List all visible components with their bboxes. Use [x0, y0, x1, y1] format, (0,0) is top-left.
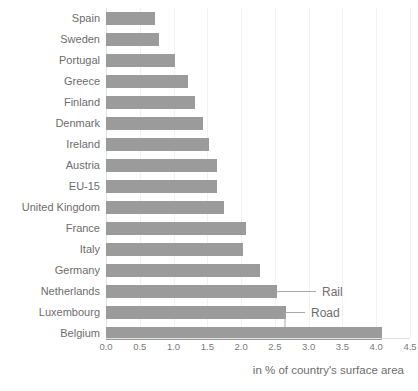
- x-axis-title: in % of country's surface area: [0, 364, 404, 376]
- category-label: France: [0, 218, 100, 239]
- bar: [106, 54, 175, 67]
- category-label: Sweden: [0, 29, 100, 50]
- category-label: Ireland: [0, 134, 100, 155]
- callout-label-rail: Rail: [322, 285, 343, 299]
- category-label: Luxembourg: [0, 302, 100, 323]
- category-label: Netherlands: [0, 281, 100, 302]
- bar-row: [106, 50, 410, 71]
- bar-row: [106, 134, 410, 155]
- bar-row: [106, 155, 410, 176]
- bar: [106, 117, 203, 130]
- bar-row: [106, 71, 410, 92]
- x-tick-label: 4.5: [390, 341, 418, 352]
- bar: [106, 180, 217, 193]
- bar: [106, 201, 224, 214]
- bar: [106, 12, 155, 25]
- x-axis-line: [106, 338, 410, 339]
- category-label: EU-15: [0, 176, 100, 197]
- bar-row: [106, 260, 410, 281]
- category-label: Austria: [0, 155, 100, 176]
- bar-row: [106, 113, 410, 134]
- bar-row: [106, 197, 410, 218]
- bar: [106, 222, 246, 235]
- bar-row: [106, 281, 410, 302]
- bar: [106, 306, 286, 319]
- category-label: Greece: [0, 71, 100, 92]
- category-label: Germany: [0, 260, 100, 281]
- bar: [106, 159, 217, 172]
- bar: [106, 96, 195, 109]
- bar: [106, 243, 243, 256]
- bar: [106, 264, 260, 277]
- plot-area: [106, 8, 410, 338]
- bar-row: [106, 29, 410, 50]
- category-label: Italy: [0, 239, 100, 260]
- bar-row: [106, 218, 410, 239]
- bar-row: [106, 302, 410, 323]
- bar-chart: SpainSwedenPortugalGreeceFinlandDenmarkI…: [0, 0, 418, 391]
- x-axis-tick-labels: 0.00.51.01.52.02.53.03.54.04.5: [0, 341, 418, 357]
- bar-row: [106, 92, 410, 113]
- bar: [106, 285, 277, 298]
- bar-row: [106, 239, 410, 260]
- bar: [106, 138, 209, 151]
- bar: [106, 75, 188, 88]
- category-label: United Kingdom: [0, 197, 100, 218]
- bar-row: [106, 176, 410, 197]
- callout-label-road: Road: [311, 306, 340, 320]
- gridline: [410, 8, 411, 338]
- bar-row: [106, 8, 410, 29]
- category-label: Denmark: [0, 113, 100, 134]
- bar: [106, 33, 159, 46]
- category-label: Portugal: [0, 50, 100, 71]
- category-label: Spain: [0, 8, 100, 29]
- category-label: Finland: [0, 92, 100, 113]
